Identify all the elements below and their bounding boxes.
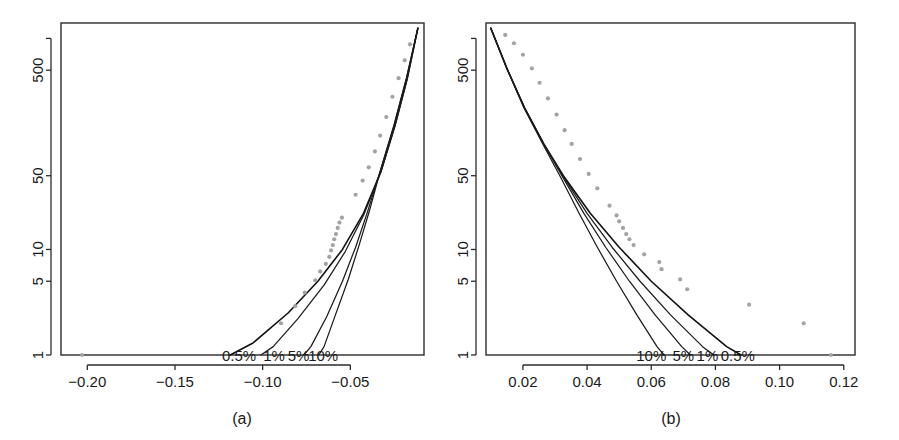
data-point [624,232,628,236]
panel-b-plot-area: 10%5%1%0.5% [486,23,855,364]
data-point [503,33,507,37]
data-point [390,95,394,99]
x-tick-label: −0.10 [244,373,282,390]
fit-curve-5pct [491,28,691,355]
y-tick-label: 5 [454,277,471,285]
panel-a-x-axis: −0.20−0.15−0.10−0.05 [68,365,369,390]
y-tick-label: 50 [29,167,46,184]
y-tick-label: 1 [454,351,471,359]
data-point [340,216,344,220]
panel-a-plot-area: 0.5%1%5%10% [61,23,424,364]
panel-a-curves [230,28,418,355]
data-point [80,353,84,357]
data-point [313,278,317,282]
panel-b-caption: (b) [661,410,681,427]
x-tick-label: 0.08 [701,373,730,390]
data-point [627,237,631,241]
data-point [570,142,574,146]
data-point [318,269,322,273]
x-tick-label: −0.20 [68,373,106,390]
quantile-label-1pct: 1% [263,347,285,364]
data-point [614,213,618,217]
panel-a-frame [61,23,424,355]
data-point [361,178,365,182]
panel-b-curves [491,28,741,355]
data-point [396,76,400,80]
data-point [563,128,567,132]
panel-b-frame [486,23,855,355]
data-point [521,53,525,57]
x-tick-label: −0.05 [331,373,369,390]
data-point [324,262,328,266]
data-point [554,112,558,116]
panel-b-y-axis: 151050500 [454,38,476,359]
y-tick-label: 50 [454,167,471,184]
fit-curve-10pct [319,28,418,355]
data-point [403,58,407,62]
data-point [327,255,331,259]
data-point [408,42,412,46]
x-tick-label: 0.06 [637,373,666,390]
data-point [303,291,307,295]
quantile-label-5pct: 5% [672,347,694,364]
fit-curve-0.5pct [230,28,418,355]
data-point [279,321,283,325]
data-point [336,226,340,230]
x-tick-label: −0.15 [156,373,194,390]
panel-a: 0.5%1%5%10% 151050500 −0.20−0.15−0.10−0.… [0,0,450,440]
data-point [678,277,682,281]
data-point [802,321,806,325]
quantile-label-1pct: 1% [697,347,719,364]
y-tick-label: 1 [29,351,46,359]
y-tick-label: 500 [454,58,471,83]
data-point [632,243,636,247]
data-point [829,353,833,357]
data-point [367,165,371,169]
panel-a-data-points [80,42,412,357]
panel-a-svg: 0.5%1%5%10% 151050500 −0.20−0.15−0.10−0.… [0,0,450,440]
data-point [659,267,663,271]
data-point [685,287,689,291]
data-point [384,115,388,119]
data-point [512,41,516,45]
data-point [578,157,582,161]
fit-curve-1pct [261,28,418,355]
data-point [530,66,534,70]
panel-b-quantile-annotations: 10%5%1%0.5% [636,347,755,364]
data-point [337,220,341,224]
data-point [657,260,661,264]
panel-a-y-axis: 151050500 [29,38,51,359]
data-point [293,304,297,308]
fit-curve-5pct [304,28,418,355]
data-point [546,96,550,100]
y-tick-label: 500 [29,58,46,83]
panel-b-x-axis: 0.020.040.060.080.100.12 [508,365,858,390]
data-point [587,172,591,176]
data-point [331,243,335,247]
panel-a-caption: (a) [232,410,252,427]
data-point [747,303,751,307]
panel-b-data-points [503,33,833,357]
y-tick-label: 10 [29,241,46,258]
data-point [537,81,541,85]
fit-curve-10pct [491,28,664,355]
y-tick-label: 5 [29,277,46,285]
data-point [373,149,377,153]
data-point [332,237,336,241]
quantile-label-5pct: 5% [288,347,310,364]
data-point [595,186,599,190]
data-point [617,219,621,223]
panel-b-svg: 10%5%1%0.5% 151050500 0.020.040.060.080.… [449,0,899,440]
panel-b: 10%5%1%0.5% 151050500 0.020.040.060.080.… [449,0,899,440]
x-tick-label: 0.10 [765,373,794,390]
quantile-label-0-5pct: 0.5% [721,347,755,364]
quantile-label-10pct: 10% [636,347,666,364]
fit-curve-0.5pct [491,28,741,355]
x-tick-label: 0.04 [572,373,601,390]
x-tick-label: 0.02 [508,373,537,390]
quantile-label-10pct: 10% [308,347,338,364]
quantile-label-0-5pct: 0.5% [222,347,256,364]
fit-curve-1pct [491,28,714,355]
x-tick-label: 0.12 [829,373,858,390]
data-point [607,204,611,208]
